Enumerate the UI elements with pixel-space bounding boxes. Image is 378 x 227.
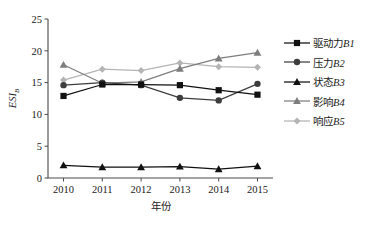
data-point-square [138,81,144,87]
data-point-square [294,40,300,46]
data-point-diamond [254,64,261,71]
data-point-square [177,82,183,88]
data-point-diamond [215,63,222,70]
chart-legend: 驱动力B1压力B2状态B3影响B4响应B5 [284,33,378,131]
data-point-square [216,87,222,93]
series-line-B5 [64,63,258,80]
data-point-square [60,93,66,99]
x-axis-title: 年份 [151,200,172,212]
series-line-B3 [64,165,258,169]
data-point-triangle [60,61,68,68]
data-point-square [99,81,105,87]
data-point-square [254,92,260,98]
y-tick-label: 0 [37,173,42,184]
legend-marker-triangle-icon [284,94,310,108]
data-point-diamond [99,66,106,73]
legend-marker-diamond-icon [284,114,310,128]
axis-lines [48,19,273,178]
y-tick-label: 5 [37,141,42,152]
legend-marker-triangle-icon [284,75,310,89]
chart-figure: 0510152025201020112012201320142015年份ESIB… [0,0,378,227]
legend-marker-square-icon [284,36,310,50]
data-point-circle [294,59,300,65]
data-point-triangle [254,162,262,169]
data-point-diamond [138,67,145,74]
data-point-circle [177,95,183,101]
x-tick-label: 2010 [53,184,74,195]
y-axis-title: ESIB [7,88,21,109]
legend-label-B4: 影响B4 [313,94,345,109]
x-tick-label: 2013 [169,184,190,195]
series-line-B1 [64,85,258,96]
data-point-circle [254,81,260,87]
data-point-circle [215,97,221,103]
legend-label-B3: 状态B3 [313,74,345,89]
legend-item-B3[interactable]: 状态B3 [284,72,378,92]
x-tick-label: 2015 [247,184,268,195]
legend-item-B1[interactable]: 驱动力B1 [284,33,378,53]
x-tick-label: 2011 [92,184,113,195]
y-tick-label: 20 [32,46,43,57]
x-tick-label: 2014 [208,184,230,195]
data-point-circle [60,82,66,88]
x-tick-label: 2012 [131,184,152,195]
series-B5 [60,59,261,83]
data-point-diamond [294,117,301,124]
series-line-B4 [64,53,258,84]
line-chart-svg: 0510152025201020112012201320142015年份ESIB [0,0,290,227]
y-tick-label: 10 [32,109,43,120]
legend-marker-circle-icon [284,55,310,69]
legend-item-B2[interactable]: 压力B2 [284,53,378,73]
data-point-triangle [254,49,262,56]
y-tick-label: 25 [32,14,43,25]
legend-item-B5[interactable]: 响应B5 [284,111,378,131]
y-tick-label: 15 [32,77,43,88]
svg-text:ESIB: ESIB [7,88,21,109]
plot-area: 0510152025201020112012201320142015年份ESIB [0,0,290,227]
legend-label-B1: 驱动力B1 [313,35,355,50]
legend-label-B2: 压力B2 [313,55,345,70]
series-B1 [60,81,260,99]
series-B3 [60,161,262,172]
legend-item-B4[interactable]: 影响B4 [284,92,378,112]
series-B4 [60,49,262,86]
legend-label-B5: 响应B5 [313,113,345,128]
